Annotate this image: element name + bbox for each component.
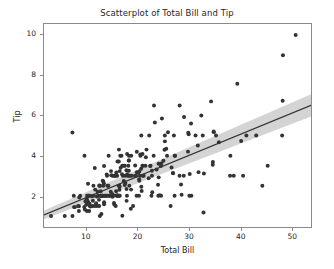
scatter-point [114,189,118,193]
scatter-point [254,134,258,138]
scatter-point [281,53,285,57]
scatter-point [105,184,109,188]
scatter-point [92,194,96,198]
scatter-point [139,134,143,138]
scatter-point [109,190,113,194]
scatter-point [139,185,143,189]
scatter-point [228,174,232,178]
scatter-point [201,134,205,138]
scatter-point [122,179,126,183]
scatter-point [153,121,157,125]
scatter-point [140,189,144,193]
y-tick-label: 2 [14,193,36,201]
scatter-point [113,193,117,197]
scatter-point [150,190,154,194]
scatter-point [133,164,137,168]
scatter-point [169,204,173,208]
scatter-point [97,198,101,202]
scatter-point [93,166,97,170]
scatter-point [127,169,131,173]
scatter-point [123,174,127,178]
scatter-point [160,116,164,120]
scatter-point [178,103,182,107]
plot-area [43,23,312,228]
scatter-point [178,174,182,178]
scatter-point [129,188,133,192]
scatter-point [117,188,121,192]
scatter-point [182,115,186,119]
scatter-point [70,214,74,218]
scatter-point [126,164,130,168]
scatter-point [98,214,102,218]
scatter-point [139,154,143,158]
scatter-point [91,184,95,188]
scatter-point [202,211,206,215]
scatter-point [119,166,123,170]
scatter-point [157,175,161,179]
scatter-point [194,134,198,138]
scatter-point [217,140,221,144]
scatter-point [83,154,87,158]
scatter-point [127,184,131,188]
scatter-point [170,166,174,170]
scatter-point [86,182,90,186]
scatter-point [107,154,111,158]
scatter-point [189,122,193,126]
scatter-point [91,199,95,203]
scatter-point [152,154,156,158]
scatter-point [172,134,176,138]
scatter-point [156,194,160,198]
x-tick-label: 30 [177,233,201,241]
scatter-point [163,134,167,138]
scatter-point [166,130,170,134]
scatter-point [266,164,270,168]
scatter-point [101,179,105,183]
x-tick-label: 20 [125,233,149,241]
scatter-point [149,194,153,198]
scatter-point [260,184,264,188]
scatter-point [212,130,216,134]
scatter-point [125,199,129,203]
scatter-point [179,183,183,187]
scatter-point [125,194,129,198]
scatter-point [281,99,285,103]
scatter-point [63,214,67,218]
scatter-point [173,194,177,198]
scatter-point [186,150,190,154]
scatter-point [129,207,133,211]
y-tick-label: 4 [14,152,36,160]
scatter-point [85,194,89,198]
scatter-point [105,174,109,178]
x-tick-label: 40 [229,233,253,241]
scatter-point [180,193,184,197]
scatter-point [108,194,112,198]
scatter-point [182,174,186,178]
scatter-point [116,159,120,163]
x-tick-mark [292,228,293,231]
scatter-point [77,195,81,199]
scatter-point [147,176,151,180]
scatter-point [161,159,165,163]
scatter-point [93,204,97,208]
scatter-point [148,164,152,168]
scatter-point [152,103,156,107]
scatter-point [77,209,81,213]
scatter-point [118,154,122,158]
scatter-point [135,194,139,198]
scatter-point [129,154,133,158]
y-tick-label: 6 [14,111,36,119]
y-tick-label: 10 [14,30,36,38]
scatter-point [145,148,149,152]
scatter-point [171,171,175,175]
scatter-point [83,199,87,203]
x-tick-mark [241,228,242,231]
scatter-point [85,209,89,213]
scatter-point [125,187,129,191]
regression-line [44,105,311,215]
scatter-point [113,174,117,178]
x-tick-label: 10 [74,233,98,241]
x-tick-label: 50 [280,233,304,241]
scatter-point [135,150,139,154]
scatter-point [228,154,232,158]
scatter-point [88,205,92,209]
